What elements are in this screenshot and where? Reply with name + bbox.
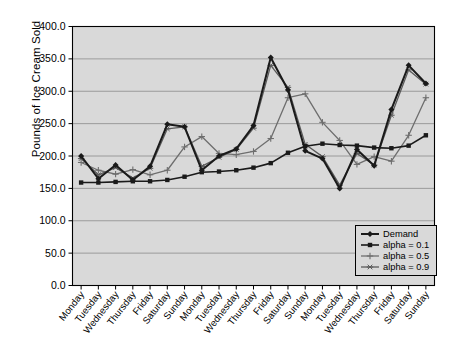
y-tick-label: 0.0 [51, 279, 66, 291]
legend-label: alpha = 0.9 [383, 262, 429, 272]
y-tick-label: 150.0 [39, 182, 65, 194]
y-tick-label: 350.0 [39, 52, 65, 64]
line-chart-plot: 0.050.0100.0150.0200.0250.0300.0350.0400… [0, 0, 459, 345]
y-tick-label: 300.0 [39, 85, 65, 97]
x-axis-ticks: MondayTuesdayWednesdayThursdayFridaySatu… [57, 286, 432, 336]
legend-item: alpha = 0.1 [360, 239, 434, 250]
y-tick-label: 100.0 [39, 214, 65, 226]
legend-label: alpha = 0.5 [383, 251, 429, 261]
legend-item: alpha = 0.5 [360, 250, 434, 261]
y-tick-label: 200.0 [39, 150, 65, 162]
y-axis-ticks: 0.050.0100.0150.0200.0250.0300.0350.0400… [39, 20, 72, 291]
legend-swatch-alpha-09 [360, 262, 380, 272]
legend-swatch-alpha-05 [360, 251, 380, 261]
legend-item: alpha = 0.9 [360, 261, 434, 272]
chart-container: Pounds of Ice Cream Sold 0.050.0100.0150… [0, 0, 459, 345]
legend-swatch-demand [360, 229, 380, 239]
chart-legend: Demand alpha = 0.1 alpha = 0.5 alpha = 0… [355, 225, 437, 276]
legend-swatch-alpha-01 [360, 240, 380, 250]
legend-item: Demand [360, 228, 434, 239]
y-tick-label: 250.0 [39, 117, 65, 129]
y-tick-label: 50.0 [45, 247, 66, 259]
legend-label: Demand [383, 229, 418, 239]
y-tick-label: 400.0 [39, 20, 65, 32]
legend-label: alpha = 0.1 [383, 240, 429, 250]
